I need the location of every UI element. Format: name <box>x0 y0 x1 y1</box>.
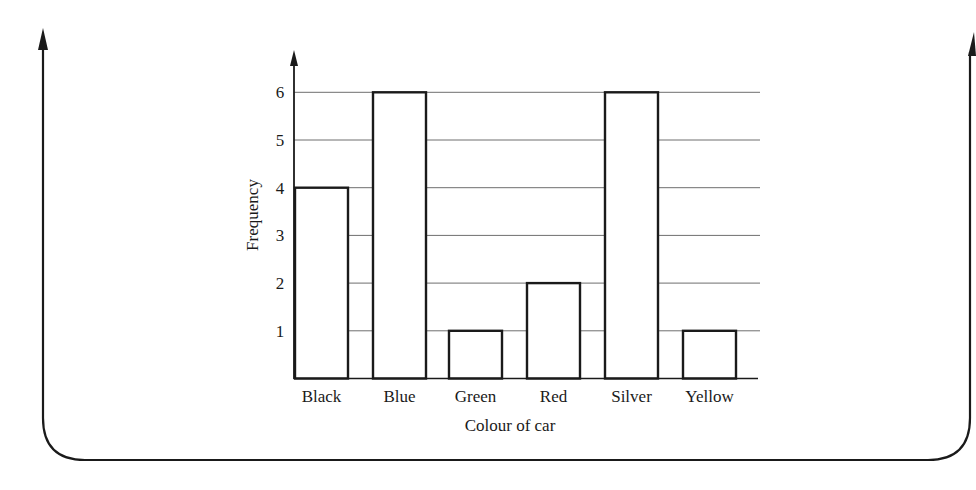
bar-chart: 123456 BlackBlueGreenRedSilverYellow Col… <box>0 0 976 490</box>
frame-right-arrow-icon <box>968 32 976 56</box>
x-axis-title: Colour of car <box>465 416 556 435</box>
bar-yellow <box>683 331 736 379</box>
y-tick-label: 6 <box>276 83 285 102</box>
y-tick-label: 2 <box>276 274 285 293</box>
frame-outline <box>43 40 970 460</box>
y-tick-labels: 123456 <box>276 83 285 341</box>
x-category-label: Black <box>302 387 342 406</box>
bar-black <box>295 188 348 379</box>
x-category-label: Green <box>455 387 497 406</box>
y-axis-arrow-icon <box>290 50 298 66</box>
bar-blue <box>373 92 426 378</box>
x-category-labels: BlackBlueGreenRedSilverYellow <box>302 387 735 406</box>
x-category-label: Silver <box>611 387 652 406</box>
x-category-label: Red <box>540 387 568 406</box>
bar-red <box>527 283 580 378</box>
y-tick-label: 4 <box>276 179 285 198</box>
bar-silver <box>605 92 658 378</box>
y-tick-label: 5 <box>276 131 285 150</box>
y-axis-title: Frequency <box>243 179 262 251</box>
chart-figure: 123456 BlackBlueGreenRedSilverYellow Col… <box>0 0 976 490</box>
frame-left-arrow-icon <box>38 28 48 50</box>
y-tick-label: 1 <box>276 322 285 341</box>
y-tick-label: 3 <box>276 226 285 245</box>
bar-green <box>449 331 502 379</box>
x-category-label: Yellow <box>685 387 734 406</box>
x-category-label: Blue <box>383 387 415 406</box>
